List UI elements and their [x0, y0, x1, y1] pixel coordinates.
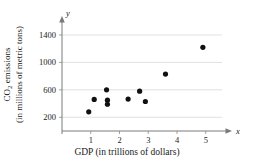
x-tick-label-3: 3 — [146, 135, 150, 145]
data-point — [163, 71, 168, 76]
data-point — [104, 87, 109, 92]
x-tick-labels-group: 12345 — [89, 135, 208, 145]
y-tick-label-1400: 1400 — [39, 30, 56, 40]
y-axis-title-subscript: 2 — [6, 85, 14, 89]
y-axis-title-co: CO — [2, 89, 12, 102]
y-axis-name-label: y — [65, 8, 70, 18]
y-axis-arrowhead — [59, 16, 65, 23]
x-axis-name-label: x — [235, 126, 240, 136]
y-tick-label-600: 600 — [43, 85, 56, 95]
x-axis-arrowhead — [226, 128, 233, 134]
data-point — [200, 45, 205, 50]
data-point — [105, 102, 110, 107]
gridlines-group — [62, 35, 222, 117]
data-point — [92, 97, 97, 102]
x-tick-label-1: 1 — [89, 135, 93, 145]
y-axis-title-emissions: emissions — [2, 48, 12, 86]
y-axis-title: CO2 emissions (in millions of metric ton… — [2, 13, 25, 137]
scatter-plot-figure: 20060010001400 12345 y x CO2 emissions (… — [0, 0, 254, 168]
x-tick-label-5: 5 — [204, 135, 208, 145]
y-tick-label-1000: 1000 — [39, 57, 56, 67]
x-axis-title: GDP (in trillions of dollars) — [0, 147, 254, 158]
data-point — [143, 99, 148, 104]
plot-canvas: 20060010001400 12345 y x — [0, 0, 254, 168]
x-tick-label-4: 4 — [175, 135, 180, 145]
data-point — [126, 97, 131, 102]
y-tick-label-200: 200 — [43, 112, 56, 122]
data-points-group — [86, 45, 205, 115]
tickmarks-group — [59, 35, 206, 134]
data-point — [86, 109, 91, 114]
data-point — [137, 89, 142, 94]
x-tick-label-2: 2 — [117, 135, 121, 145]
y-axis-title-units: (in millions of metric tons) — [14, 13, 25, 137]
y-tick-labels-group: 20060010001400 — [39, 30, 56, 122]
